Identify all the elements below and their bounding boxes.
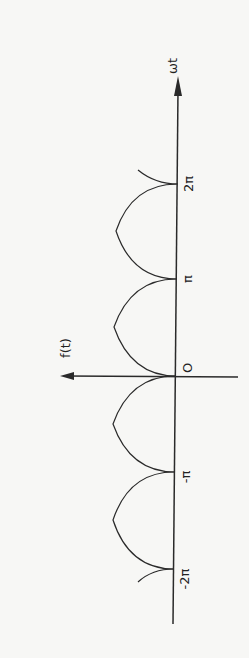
f-axis-arrowhead (60, 372, 74, 380)
wave-hump-2 (114, 279, 176, 376)
omega-t-axis (173, 90, 178, 624)
origin-label: O (180, 363, 195, 373)
tick-label-2pi: 2π (181, 176, 196, 192)
wave-hump-4 (113, 472, 174, 569)
f-of-t-label: f(t) (58, 338, 73, 358)
wave-partial-bottom (138, 569, 174, 582)
f-axis (66, 376, 238, 377)
tick-label-pi: π (180, 275, 195, 283)
tick-label-neg-2pi: -2π (177, 568, 192, 589)
omega-t-label: ωt (165, 58, 180, 74)
wave-partial-top (138, 170, 178, 184)
wave-hump-1 (116, 184, 177, 279)
tick-label-neg-pi: -π (178, 471, 193, 484)
omega-t-arrowhead (174, 76, 182, 96)
wave-hump-3 (113, 376, 175, 472)
rectified-sine-diagram: ωt f(t) O 2π π -π -2π (0, 0, 249, 658)
